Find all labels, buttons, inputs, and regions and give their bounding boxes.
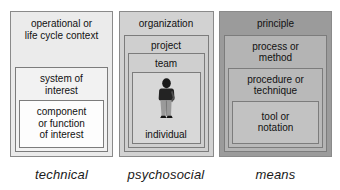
level-label-operational-context: operational or life cycle context: [15, 16, 108, 43]
box-team: team: [128, 53, 205, 148]
box-component-or-function: component or function of interest: [19, 100, 104, 148]
level-label-principle: principle: [224, 16, 327, 32]
level-label-individual: individual: [135, 128, 198, 142]
nested-context-diagram: operational or life cycle context system…: [0, 0, 340, 190]
column-means: principle process or method procedure or…: [219, 11, 332, 182]
box-project: project team: [124, 35, 209, 153]
panel-means: principle process or method procedure or…: [219, 11, 332, 157]
box-process-or-method: process or method procedure or technique…: [224, 35, 327, 153]
panel-technical: operational or life cycle context system…: [10, 11, 113, 157]
box-system-of-interest: system of interest component or function…: [15, 67, 108, 152]
level-label-team: team: [132, 57, 201, 71]
box-procedure-or-technique: procedure or technique tool or notation: [228, 68, 323, 149]
column-psychosocial: organization project team: [119, 11, 214, 182]
box-tool-or-notation: tool or notation: [232, 101, 319, 145]
level-label-system-of-interest: system of interest: [19, 71, 104, 98]
box-individual: individual: [132, 72, 201, 145]
diagram-columns: operational or life cycle context system…: [0, 0, 340, 190]
caption-technical: technical: [10, 167, 113, 182]
column-technical: operational or life cycle context system…: [10, 11, 113, 182]
level-label-project: project: [128, 39, 205, 53]
person-figure-wrap: [135, 75, 198, 128]
panel-psychosocial: organization project team: [119, 11, 214, 157]
level-label-procedure-or-technique: procedure or technique: [232, 72, 319, 99]
level-label-tool-or-notation: tool or notation: [236, 109, 315, 136]
level-label-process-or-method: process or method: [228, 39, 323, 66]
caption-means: means: [219, 167, 332, 182]
caption-psychosocial: psychosocial: [119, 167, 214, 182]
person-standing-icon: [153, 78, 179, 124]
level-label-organization: organization: [124, 16, 209, 32]
level-label-component-or-function: component or function of interest: [23, 104, 100, 143]
